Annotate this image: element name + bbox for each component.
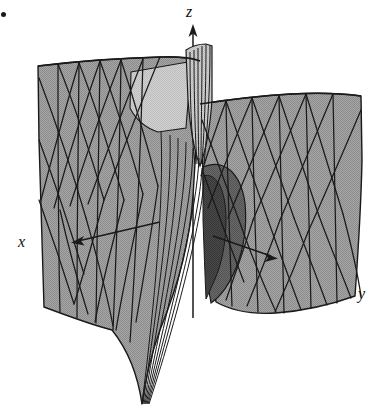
figure-3d-surface-plot: z x y bbox=[0, 0, 377, 411]
surface-plot-canvas bbox=[0, 0, 377, 411]
z-axis-label: z bbox=[186, 4, 192, 20]
x-axis-label: x bbox=[18, 234, 25, 250]
y-axis-label: y bbox=[358, 286, 365, 302]
